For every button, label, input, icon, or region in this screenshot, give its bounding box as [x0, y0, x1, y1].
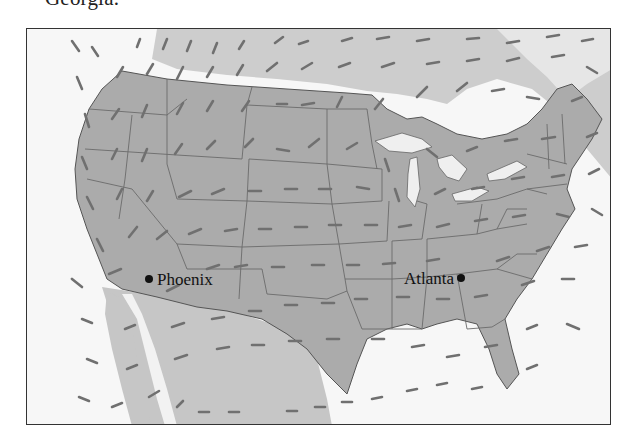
wind-vector-map: Phoenix Atlanta: [26, 28, 611, 425]
phoenix-dot: [145, 275, 153, 283]
atlanta-dot: [457, 274, 465, 282]
phoenix-label: Phoenix: [157, 270, 213, 289]
figure-caption: Georgia.: [45, 0, 119, 11]
map-canvas: Phoenix Atlanta: [27, 29, 611, 425]
atlanta-label: Atlanta: [404, 269, 454, 288]
